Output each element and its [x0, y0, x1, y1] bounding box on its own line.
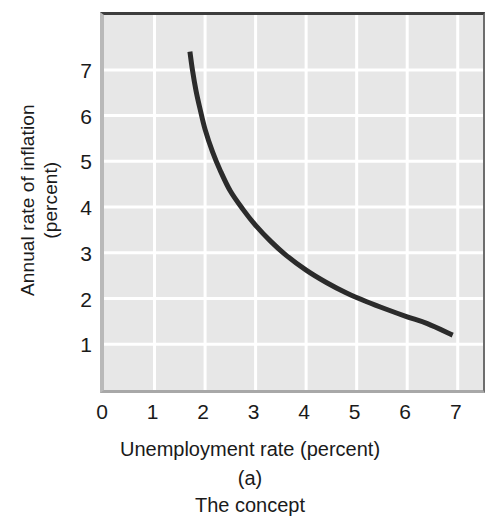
- x-axis-tick-label: 5: [340, 401, 370, 422]
- x-axis-tick-label: 7: [441, 401, 471, 422]
- y-axis-tick-label: 5: [66, 151, 92, 172]
- y-axis-tick-label: 2: [66, 288, 92, 309]
- x-axis-tick-label: 0: [87, 401, 117, 422]
- x-axis-tick-label: 1: [138, 401, 168, 422]
- data-series-layer: [190, 52, 453, 336]
- panel-label: (a): [0, 467, 500, 490]
- y-axis-tick-label: 4: [66, 197, 92, 218]
- plot-svg: [104, 15, 483, 390]
- x-axis-tick-labels: 01234567: [0, 401, 500, 431]
- x-axis-tick-label: 4: [289, 401, 319, 422]
- x-axis-title: Unemployment rate (percent): [0, 438, 500, 461]
- plot-area: [100, 12, 485, 393]
- x-axis-tick-label: 3: [239, 401, 269, 422]
- phillips-curve-figure: (percent) Annual rate of inflation 12345…: [0, 0, 500, 526]
- y-axis-tick-label: 3: [66, 242, 92, 263]
- series-line: [190, 52, 453, 336]
- y-axis-title-line1: Annual rate of inflation: [16, 104, 39, 295]
- x-axis-tick-label: 6: [390, 401, 420, 422]
- y-axis-tick-label: 1: [66, 334, 92, 355]
- y-axis-title-line2: (percent): [39, 162, 62, 239]
- gridlines: [104, 15, 483, 390]
- panel-caption: The concept: [0, 494, 500, 517]
- x-axis-tick-label: 2: [188, 401, 218, 422]
- y-axis-tick-label: 6: [66, 105, 92, 126]
- y-axis-tick-label: 7: [66, 59, 92, 80]
